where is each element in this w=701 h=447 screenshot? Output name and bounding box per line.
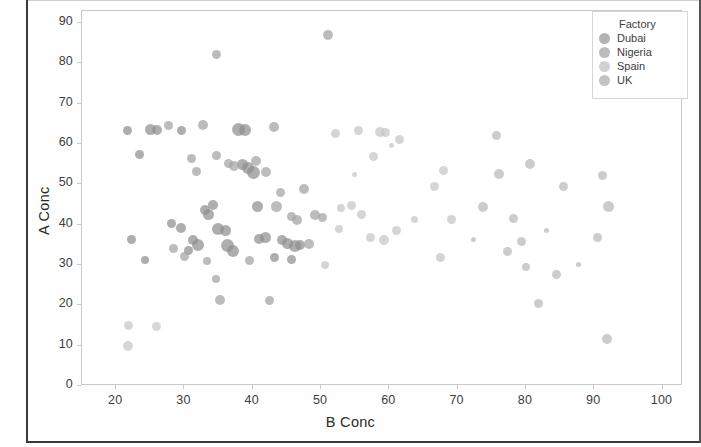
legend-item[interactable]: Dubai	[599, 31, 681, 45]
x-tick-label: 70	[437, 393, 477, 407]
legend-item[interactable]: Spain	[599, 59, 681, 73]
scatter-chart: 0102030405060708090 2030405060708090100 …	[0, 0, 701, 447]
data-point	[287, 255, 296, 264]
data-point	[247, 166, 260, 179]
y-tick-mark	[77, 143, 81, 144]
data-point	[203, 257, 211, 265]
data-point	[212, 50, 221, 59]
data-point	[212, 275, 220, 283]
data-point	[220, 225, 231, 236]
legend-item[interactable]: UK	[599, 73, 681, 87]
y-tick-label: 20	[39, 296, 73, 310]
y-tick-mark	[77, 183, 81, 184]
x-tick-mark	[252, 385, 253, 389]
data-point	[239, 124, 251, 136]
y-tick-mark	[77, 345, 81, 346]
x-tick-label: 60	[368, 393, 408, 407]
y-tick-mark	[77, 304, 81, 305]
legend-title: Factory	[619, 18, 681, 30]
data-point	[366, 233, 375, 242]
data-point	[270, 253, 279, 262]
data-point	[292, 215, 302, 225]
legend-item[interactable]: Nigeria	[599, 45, 681, 59]
y-tick-label: 60	[39, 135, 73, 149]
legend-swatch-icon	[599, 47, 610, 58]
data-point	[347, 201, 356, 210]
data-point	[602, 334, 612, 344]
data-point	[177, 126, 186, 135]
x-tick-label: 80	[505, 393, 545, 407]
legend-swatch-icon	[599, 75, 610, 86]
data-point	[245, 256, 254, 265]
data-point	[169, 244, 178, 253]
x-tick-mark	[662, 385, 663, 389]
legend-items: DubaiNigeriaSpainUK	[599, 31, 681, 87]
data-point	[318, 213, 327, 222]
data-point	[357, 210, 366, 219]
data-point	[337, 204, 345, 212]
data-point	[180, 252, 189, 261]
y-tick-mark	[77, 385, 81, 386]
y-tick-mark	[77, 224, 81, 225]
y-tick-label: 70	[39, 95, 73, 109]
data-point	[227, 245, 239, 257]
data-point	[576, 262, 581, 267]
data-point	[304, 239, 314, 249]
x-tick-mark	[388, 385, 389, 389]
x-tick-label: 90	[573, 393, 613, 407]
data-point	[552, 270, 561, 279]
x-tick-label: 30	[163, 393, 203, 407]
x-tick-mark	[115, 385, 116, 389]
data-point	[127, 235, 136, 244]
x-tick-mark	[525, 385, 526, 389]
data-point	[215, 295, 225, 305]
legend-swatch-icon	[599, 61, 610, 72]
data-point	[203, 209, 214, 220]
y-tick-label: 30	[39, 256, 73, 270]
data-point	[503, 247, 512, 256]
x-tick-label: 100	[642, 393, 682, 407]
x-tick-mark	[457, 385, 458, 389]
data-point	[522, 263, 530, 271]
data-point	[123, 126, 132, 135]
data-point	[439, 166, 448, 175]
data-point	[411, 216, 418, 223]
x-tick-mark	[593, 385, 594, 389]
data-point	[252, 201, 263, 212]
legend-item-label: Nigeria	[617, 47, 652, 58]
data-point	[135, 150, 144, 159]
data-point	[331, 129, 340, 138]
legend-item-label: Dubai	[617, 33, 646, 44]
y-axis-title: A Conc	[36, 186, 52, 235]
legend-swatch-icon	[599, 33, 610, 44]
x-tick-label: 20	[95, 393, 135, 407]
x-tick-mark	[183, 385, 184, 389]
y-tick-mark	[77, 264, 81, 265]
data-point	[251, 156, 261, 166]
y-tick-label: 0	[39, 377, 73, 391]
data-point	[164, 121, 173, 130]
y-tick-mark	[77, 103, 81, 104]
x-tick-label: 40	[232, 393, 272, 407]
data-point	[379, 235, 389, 245]
data-point	[494, 169, 504, 179]
data-point	[152, 322, 161, 331]
data-point	[352, 172, 357, 177]
legend-item-label: Spain	[617, 61, 645, 72]
data-point	[478, 202, 488, 212]
x-tick-label: 50	[300, 393, 340, 407]
data-point	[395, 135, 404, 144]
data-point	[525, 159, 535, 169]
data-point	[534, 299, 543, 308]
y-tick-mark	[77, 62, 81, 63]
y-tick-label: 90	[39, 14, 73, 28]
x-axis-title: B Conc	[0, 414, 701, 430]
legend-item-label: UK	[617, 75, 632, 86]
data-point	[430, 182, 439, 191]
x-tick-mark	[320, 385, 321, 389]
legend[interactable]: Factory DubaiNigeriaSpainUK	[592, 11, 688, 99]
chart-page: 0102030405060708090 2030405060708090100 …	[0, 0, 701, 447]
y-tick-label: 10	[39, 337, 73, 351]
data-point	[559, 182, 568, 191]
data-point	[276, 188, 285, 197]
